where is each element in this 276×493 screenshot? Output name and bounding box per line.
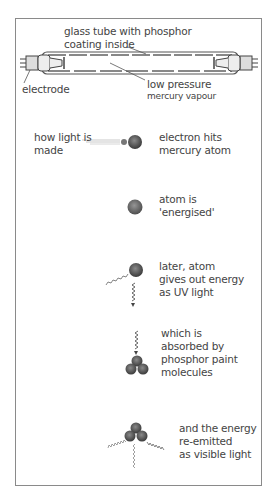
electrode-label: electrode [22, 83, 70, 96]
visible-light-emission-icon [108, 423, 164, 469]
uv-emission-icon [106, 263, 143, 307]
step-2-label: atom is 'energised' [159, 193, 214, 219]
step-4-label: which is absorbed by phosphor paint mole… [161, 327, 238, 379]
diagram-graphics [0, 0, 276, 493]
step-3-label: later, atom gives out energy as UV light [159, 260, 244, 299]
energised-atom-icon [128, 200, 143, 215]
step-5-label: and the energy re-emitted as visible lig… [179, 422, 256, 461]
mercury-vapour-label: mercury vapour [147, 91, 216, 102]
phosphor-absorption-icon [126, 331, 149, 375]
glass-tube-label: glass tube with phosphor coating inside [64, 25, 192, 51]
process-title: how light is made [34, 131, 92, 157]
low-pressure-label: low pressure [147, 78, 211, 91]
fluorescent-tube-icon [20, 47, 258, 83]
step-1-label: electron hits mercury atom [159, 131, 231, 157]
